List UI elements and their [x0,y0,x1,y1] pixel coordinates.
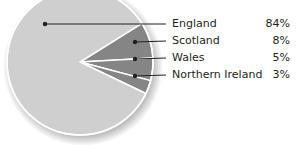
leader-dot [133,40,137,44]
leader-dot [43,22,47,26]
leader-dot [133,57,137,61]
legend-percent: 84% [250,17,290,30]
legend-percent: 3% [250,68,290,81]
legend-label-england: England [172,17,217,30]
legend-label-scotland: Scotland [172,34,220,47]
leader-dot [133,74,137,78]
legend-label-northern-ireland: Northern Ireland [172,68,262,81]
pie-slices [7,0,153,135]
legend-percent: 8% [250,34,290,47]
legend-percent: 5% [250,51,290,64]
legend-label-wales: Wales [172,51,204,64]
